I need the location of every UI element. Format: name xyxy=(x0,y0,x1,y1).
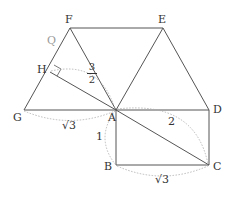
fraction-numerator: 3 xyxy=(89,61,95,72)
label-C: C xyxy=(213,161,221,172)
fraction-denominator: 2 xyxy=(89,74,95,85)
diagram-lines xyxy=(0,0,233,198)
label-A: A xyxy=(108,112,116,123)
segment-ED xyxy=(163,28,209,110)
length-HA-fraction: 3 2 xyxy=(87,62,97,85)
geometry-diagram: F E A G D C B H Q 3 2 √3 1 2 √3 xyxy=(0,0,233,198)
arc-HA xyxy=(51,69,115,109)
length-AC: 2 xyxy=(168,116,175,127)
length-AB: 1 xyxy=(96,131,103,142)
segment-HA xyxy=(50,72,116,110)
length-GA: √3 xyxy=(62,120,76,131)
label-E: E xyxy=(158,14,166,25)
label-G: G xyxy=(13,112,22,123)
length-BC: √3 xyxy=(155,174,169,185)
label-B: B xyxy=(104,161,112,172)
label-F: F xyxy=(65,14,73,25)
segment-AC xyxy=(116,110,209,165)
label-H: H xyxy=(37,64,47,75)
label-D: D xyxy=(213,104,222,115)
label-Q: Q xyxy=(47,35,56,46)
segment-EA xyxy=(116,28,163,110)
arc-AC xyxy=(117,108,208,164)
